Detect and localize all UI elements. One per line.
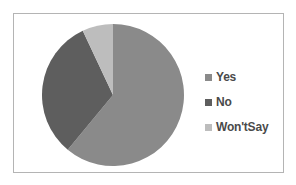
legend-swatch-no <box>205 99 212 106</box>
legend-swatch-yes <box>205 74 212 81</box>
legend-item-no: No <box>205 95 268 109</box>
legend: Yes No Won'tSay <box>205 70 268 145</box>
legend-item-yes: Yes <box>205 70 268 84</box>
legend-swatch-wont-say <box>205 124 212 131</box>
pie-chart <box>40 22 186 168</box>
legend-label-yes: Yes <box>216 70 236 84</box>
legend-label-wont-say: Won'tSay <box>216 120 268 134</box>
legend-item-wont-say: Won'tSay <box>205 120 268 134</box>
legend-label-no: No <box>216 95 232 109</box>
chart-area: Yes No Won'tSay <box>13 13 284 173</box>
